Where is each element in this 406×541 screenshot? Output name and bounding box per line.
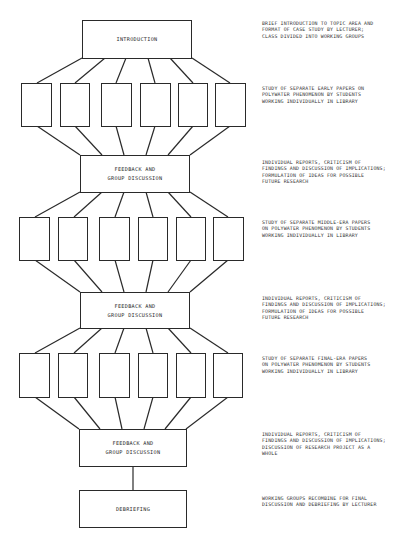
study-box-middle-1: [19, 217, 50, 261]
connector-lines: [0, 0, 406, 541]
feedback-1-note: INDIVIDUAL REPORTS, CRITICISM OF FINDING…: [262, 159, 386, 185]
study-box-middle-6: [213, 217, 244, 261]
feedback-box-1: FEEDBACK AND GROUP DISCUSSION: [80, 155, 190, 193]
feedback-1-label-line2: GROUP DISCUSSION: [108, 174, 163, 183]
study-box-final-5: [176, 353, 206, 398]
study-box-early-5: [178, 83, 208, 127]
study-box-middle-4: [138, 217, 168, 261]
feedback-1-label-line1: FEEDBACK AND: [114, 165, 155, 174]
debriefing-label: DEBRIEFING: [116, 505, 150, 514]
feedback-box-2: FEEDBACK AND GROUP DISCUSSION: [80, 292, 190, 329]
study-box-early-4: [140, 83, 171, 127]
debriefing-note: WORKING GROUPS RECOMBINE FOR FINAL DISCU…: [262, 495, 377, 508]
study-box-final-4: [138, 353, 168, 398]
feedback-3-note: INDIVIDUAL REPORTS, CRITICISM OF FINDING…: [262, 431, 386, 457]
feedback-2-note: INDIVIDUAL REPORTS, CRITICISM OF FINDING…: [262, 295, 386, 321]
study-box-middle-2: [58, 217, 88, 261]
study-box-middle-5: [176, 217, 206, 261]
introduction-box: INTRODUCTION: [82, 20, 192, 59]
study-early-note: STUDY OF SEPARATE EARLY PAPERS ON POLYWA…: [262, 85, 364, 104]
study-middle-note: STUDY OF SEPARATE MIDDLE-ERA PAPERS ON P…: [262, 219, 370, 238]
feedback-2-label-line2: GROUP DISCUSSION: [108, 311, 163, 320]
feedback-box-3: FEEDBACK AND GROUP DISCUSSION: [79, 429, 187, 467]
debriefing-box: DEBRIEFING: [79, 490, 187, 528]
study-box-middle-3: [99, 217, 130, 261]
study-box-final-6: [213, 353, 243, 398]
study-box-final-2: [58, 353, 88, 398]
study-box-early-6: [215, 83, 246, 127]
introduction-label: INTRODUCTION: [116, 35, 157, 44]
study-box-early-1: [21, 83, 52, 127]
study-final-note: STUDY OF SEPARATE FINAL-ERA PAPERS ON PO…: [262, 355, 370, 374]
feedback-3-label-line2: GROUP DISCUSSION: [106, 448, 161, 457]
study-box-early-2: [60, 83, 90, 127]
feedback-2-label-line1: FEEDBACK AND: [114, 302, 155, 311]
study-box-final-3: [99, 353, 130, 398]
feedback-3-label-line1: FEEDBACK AND: [112, 439, 153, 448]
study-box-final-1: [19, 353, 50, 398]
introduction-note: BRIEF INTRODUCTION TO TOPIC AREA AND FOR…: [262, 20, 373, 39]
study-box-early-3: [101, 83, 132, 127]
